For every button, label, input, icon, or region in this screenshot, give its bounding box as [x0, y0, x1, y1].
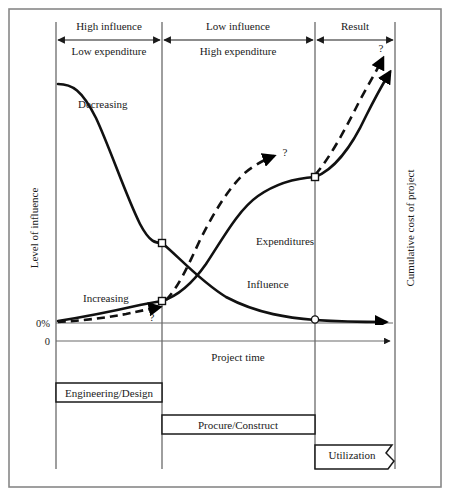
project-influence-cost-diagram: High influence Low expenditure Low influ… [0, 0, 450, 504]
question-mark-lower-left: ? [150, 311, 155, 323]
marker-influence-phase1-end [159, 240, 166, 247]
marker-influence-phase2-end [311, 316, 318, 323]
right-axis-label: Cumulative cost of project [404, 170, 416, 287]
phase-2-top-label: Low influence [206, 20, 270, 32]
label-expenditures: Expenditures [256, 235, 314, 247]
diagram-canvas: High influence Low expenditure Low influ… [0, 0, 450, 504]
y-tick-zero: 0 [45, 336, 50, 347]
question-mark-upper-right: ? [379, 42, 384, 54]
x-axis-label: Project time [211, 351, 265, 363]
phase-2-bottom-label: High expenditure [200, 45, 277, 57]
marker-expenditures-phase2-end [312, 174, 319, 181]
question-mark-mid: ? [283, 146, 288, 158]
bar-utilization-label: Utilization [328, 449, 376, 461]
label-influence: Influence [247, 278, 289, 290]
marker-expenditures-phase1-end [159, 298, 166, 305]
phase-1-bottom-label: Low expenditure [72, 45, 147, 57]
phase-3-top-label: Result [341, 20, 369, 32]
label-increasing: Increasing [83, 292, 129, 304]
label-decreasing: Decreasing [78, 98, 128, 110]
phase-1-top-label: High influence [76, 20, 142, 32]
left-axis-label: Level of influence [28, 188, 40, 269]
y-tick-zero-percent: 0% [36, 318, 50, 329]
bar-engineering-design-label: Engineering/Design [65, 387, 153, 399]
bar-procure-construct-label: Procure/Construct [198, 419, 278, 431]
